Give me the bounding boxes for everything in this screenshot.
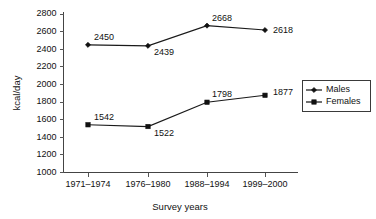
x-tick-label: 1999–2000 <box>242 179 287 189</box>
data-point <box>146 124 150 128</box>
x-tick-label: 1971–1974 <box>65 179 110 189</box>
y-tick-label: 2600 <box>36 26 56 36</box>
y-tick-label: 1000 <box>36 167 56 177</box>
data-label: 2668 <box>212 13 232 23</box>
data-label: 1542 <box>94 112 114 122</box>
data-label-layer: 24502439266826181542152217981877 <box>94 13 293 138</box>
data-label: 1877 <box>273 87 293 97</box>
data-point <box>86 123 90 127</box>
y-tick-label: 1600 <box>36 114 56 124</box>
legend: MalesFemales <box>303 81 371 112</box>
data-label: 2618 <box>273 25 293 35</box>
data-point <box>263 93 267 97</box>
series-line <box>88 26 265 46</box>
data-point <box>204 23 209 28</box>
x-axis: 1971–19741976–19801988–19941999–2000 Sur… <box>64 173 299 213</box>
y-axis-title: kcal/day <box>11 75 22 110</box>
legend-label: Males <box>326 84 351 94</box>
data-label: 2450 <box>94 32 114 42</box>
legend-marker <box>312 100 316 104</box>
data-point <box>205 100 209 104</box>
data-label: 1798 <box>212 89 232 99</box>
data-point <box>262 27 267 32</box>
y-tick-label: 2400 <box>36 44 56 54</box>
y-tick-label: 1800 <box>36 96 56 106</box>
data-point <box>145 43 150 48</box>
chart-container: 2800260024002200200018001600140012001000… <box>0 0 376 219</box>
data-point <box>85 42 90 47</box>
y-tick-label: 1200 <box>36 149 56 159</box>
legend-label: Females <box>326 96 361 106</box>
series-line <box>88 95 265 126</box>
y-axis: 2800260024002200200018001600140012001000… <box>11 8 64 177</box>
line-chart: 2800260024002200200018001600140012001000… <box>0 0 376 219</box>
y-tick-label: 2200 <box>36 61 56 71</box>
data-label: 1522 <box>154 128 174 138</box>
x-axis-title: Survey years <box>152 201 208 212</box>
x-tick-label: 1988–1994 <box>184 179 229 189</box>
y-tick-label: 1400 <box>36 132 56 142</box>
y-tick-label: 2800 <box>36 8 56 18</box>
y-tick-label: 2000 <box>36 79 56 89</box>
x-tick-label: 1976–1980 <box>125 179 170 189</box>
data-label: 2439 <box>154 47 174 57</box>
